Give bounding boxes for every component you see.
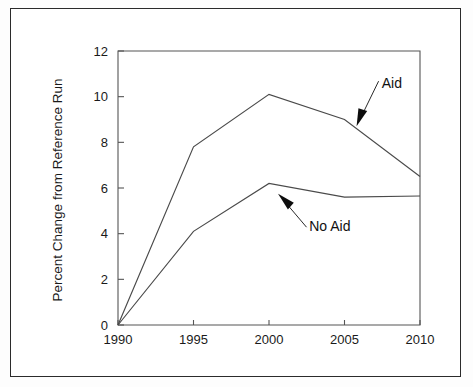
y-tick-label: 0 (101, 318, 108, 333)
y-tick-label: 2 (101, 272, 108, 287)
x-tick-marks (118, 320, 420, 325)
y-tick-label: 10 (94, 89, 108, 104)
x-tick-label: 2000 (255, 332, 284, 347)
y-tick-label: 8 (101, 135, 108, 150)
y-tick-label: 12 (94, 44, 108, 59)
chart-series-lines (118, 94, 420, 325)
x-tick-label: 1995 (179, 332, 208, 347)
y-axis-title: Percent Change from Reference Run (50, 79, 65, 302)
chart-axes (118, 51, 420, 325)
annotation-label-no-aid: No Aid (309, 218, 350, 234)
x-tick-labels: 19901995200020052010 (104, 332, 435, 347)
y-tick-label: 6 (101, 181, 108, 196)
series-line-no-aid (118, 183, 420, 325)
annotation-leader-line (364, 81, 379, 111)
annotation-label-aid: Aid (382, 75, 402, 91)
series-line-aid (118, 94, 420, 325)
x-tick-label: 2010 (406, 332, 435, 347)
annotation-arrowhead (278, 194, 294, 210)
annotation-leader-line (289, 207, 306, 228)
figure-root: 024681012 19901995200020052010 Percent C… (0, 0, 473, 387)
line-chart: 024681012 19901995200020052010 Percent C… (0, 0, 473, 387)
x-tick-label: 2005 (330, 332, 359, 347)
y-tick-marks (118, 51, 124, 325)
chart-annotations: AidNo Aid (278, 75, 402, 234)
y-tick-label: 4 (101, 226, 108, 241)
annotation-arrowhead (357, 108, 368, 126)
y-tick-labels: 024681012 (94, 44, 108, 333)
axis-frame (118, 51, 420, 325)
x-tick-label: 1990 (104, 332, 133, 347)
